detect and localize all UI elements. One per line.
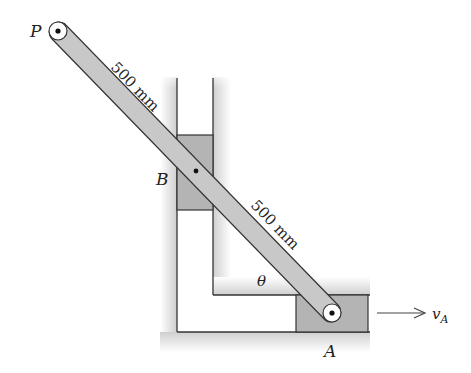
pin-p — [49, 22, 67, 40]
label-p: P — [29, 21, 42, 41]
pin-a — [323, 304, 341, 322]
label-b: B — [155, 169, 169, 189]
label-a: A — [322, 341, 336, 361]
label-velocity: vA — [432, 305, 448, 326]
mechanism-diagram: P B A θ vA 500 mm 500 mm — [0, 0, 471, 373]
pin-b — [194, 169, 199, 174]
velocity-arrow — [377, 308, 425, 318]
label-theta: θ — [257, 272, 266, 290]
